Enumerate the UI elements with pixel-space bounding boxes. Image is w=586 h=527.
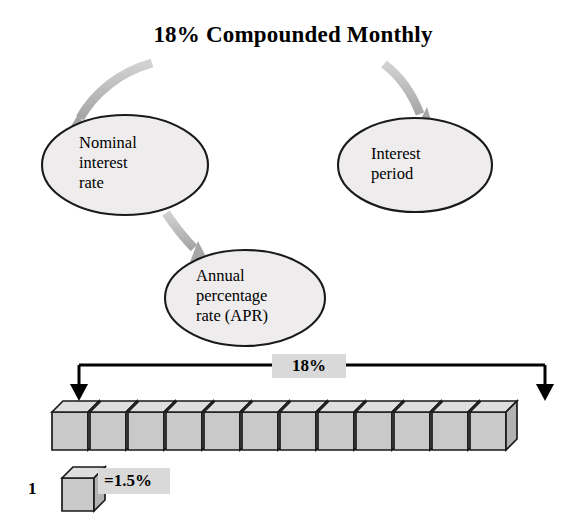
diagram-canvas: 18% Compounded Monthly [0,0,586,527]
compounding-period-boxes [52,401,517,450]
legend-count-label: 1 [28,479,37,499]
diagram-graphics [0,0,586,527]
arrow-nominal-to-apr-icon [166,213,206,262]
legend-value-label: =1.5% [98,468,170,494]
node-label-annual-percentage-rate: Annual percentage rate (APR) [196,266,268,326]
period-box [470,401,517,450]
node-label-interest-period: Interest period [371,144,420,184]
bracket-label-18-percent: 18% [272,354,346,378]
node-label-nominal-interest-rate: Nominal interest rate [79,133,137,193]
